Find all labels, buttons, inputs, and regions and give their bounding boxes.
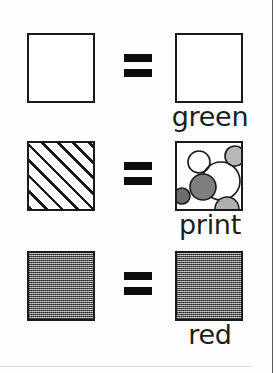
equals-sign-green [124, 54, 152, 80]
page-edge-rule-vertical [272, 0, 273, 373]
swatch-label-red: red [160, 320, 260, 350]
legend-row-print: print [0, 134, 260, 244]
pattern-swatch-plain-left [27, 33, 95, 103]
swatch-label-print: print [160, 210, 260, 240]
result-swatch-red [175, 251, 243, 321]
result-swatch-print [175, 141, 243, 211]
page-edge-rule-horizontal [0, 366, 252, 367]
legend-row-green: green [0, 26, 260, 136]
equals-bar-top [124, 54, 152, 62]
equals-bar-bottom [124, 177, 152, 185]
pattern-swatch-diagonal-hatch [27, 141, 95, 211]
equals-bar-bottom [124, 287, 152, 295]
equals-bar-top [124, 272, 152, 280]
equals-bar-top [124, 162, 152, 170]
equals-sign-red [124, 272, 152, 298]
pattern-swatch-gray-dither-left [27, 251, 95, 321]
legend-row-red: red [0, 244, 260, 354]
legend-figure: green print red [0, 0, 276, 373]
result-swatch-green [175, 33, 243, 103]
equals-sign-print [124, 162, 152, 188]
swatch-label-green: green [160, 102, 260, 132]
equals-bar-bottom [124, 69, 152, 77]
print-circles-graphic [177, 143, 241, 209]
